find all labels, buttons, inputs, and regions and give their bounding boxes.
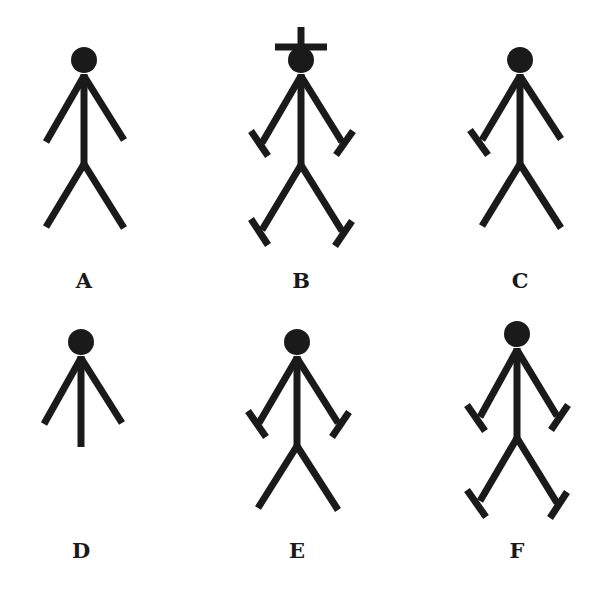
label-d: D: [51, 540, 111, 561]
head-icon: [284, 329, 310, 355]
right-leg: [520, 164, 561, 228]
label-a: A: [54, 270, 114, 291]
stick-figure-diagram: [0, 0, 605, 595]
label-c: C: [490, 270, 550, 291]
figure-c: [470, 47, 561, 228]
right-arm: [297, 358, 338, 423]
left-leg: [46, 164, 84, 227]
left-arm: [482, 76, 520, 140]
left-arm: [262, 76, 301, 143]
head-icon: [504, 321, 530, 347]
figure-d: [44, 329, 122, 447]
figure-f: [467, 321, 568, 518]
right-arm: [301, 76, 342, 142]
left-leg: [482, 164, 520, 226]
left-leg: [258, 446, 297, 508]
right-arm: [520, 76, 561, 139]
left-arm: [259, 358, 297, 423]
head-icon: [68, 329, 94, 355]
head-icon: [507, 47, 533, 73]
head-icon: [288, 47, 314, 73]
label-e: E: [267, 540, 327, 561]
right-leg: [84, 164, 124, 228]
right-arm: [517, 350, 557, 416]
left-arm: [46, 76, 84, 142]
left-leg: [480, 438, 517, 501]
head-icon: [71, 47, 97, 73]
label-f: F: [487, 540, 547, 561]
left-leg: [262, 165, 301, 230]
figure-e: [248, 329, 349, 510]
right-leg: [297, 446, 338, 510]
label-b: B: [271, 270, 331, 291]
left-arm: [44, 358, 81, 424]
left-arm: [480, 350, 517, 417]
figure-b: [251, 27, 353, 246]
figure-a: [46, 47, 124, 228]
right-leg: [517, 438, 557, 503]
right-arm: [81, 358, 122, 423]
right-leg: [301, 165, 342, 231]
right-arm: [84, 76, 124, 140]
